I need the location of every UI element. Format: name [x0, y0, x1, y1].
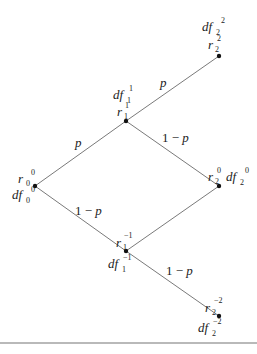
node-label-r-2-m2: r2−2 — [205, 301, 210, 314]
node-label-r-2-2: r22 — [208, 38, 213, 51]
edge-label-down-0: 1 − p — [75, 203, 102, 219]
bottom-divider — [0, 342, 257, 344]
edge-n00-n11 — [35, 121, 126, 186]
node-label-r-2-0: r20 — [208, 170, 213, 183]
node-label-df-1-1: df11 — [113, 88, 123, 101]
node-label-df-2-2: df22 — [202, 20, 212, 33]
node-label-r-1-1: r11 — [117, 105, 122, 118]
node-label-df-2-0: df20 — [226, 170, 236, 183]
node-label-df-0-0: df00 — [12, 188, 22, 201]
edge-label-down-1: 1 − p — [162, 130, 189, 146]
edge-n1m1-n20 — [126, 186, 219, 251]
edge-label-up-1: p — [160, 75, 167, 91]
node-label-r-1-m1: r1−1 — [116, 236, 121, 249]
edge-label-up-0: p — [75, 135, 82, 151]
node-dot-n22 — [217, 54, 221, 58]
edge-label-down-2: 1 − p — [166, 263, 193, 279]
node-label-r-0-0: r00 — [18, 172, 23, 185]
node-label-df-1-m1: df1−1 — [108, 257, 118, 270]
node-label-df-2-m2: df2−2 — [198, 321, 208, 334]
edge-n11-n22 — [126, 56, 219, 121]
